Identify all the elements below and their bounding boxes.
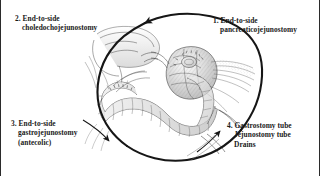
- label-4-line-3: Drains: [227, 140, 292, 149]
- label-3-line-1: End-to-side: [19, 119, 56, 128]
- label-1-line-2: pancreaticojejunostomy: [213, 25, 297, 34]
- label-4-line-2: Jejunostomy tube: [227, 130, 292, 139]
- label-2-choledochojejunostomy: 2. End-to-side choledochojejunostomy: [15, 14, 97, 33]
- label-3-gastrojejunostomy: 3. End-to-side gastrojejunostomy (anteco…: [11, 119, 77, 147]
- label-1-number: 1.: [213, 16, 219, 25]
- label-4-line-1: Gastrostomy tube: [235, 121, 292, 130]
- label-2-line-2: choledochojejunostomy: [15, 23, 97, 32]
- figure-panel: 1. End-to-side pancreaticojejunostomy 2.…: [0, 0, 320, 176]
- label-3-line-2: gastrojejunostomy: [11, 128, 77, 137]
- flow-arrow-right: [241, 31, 262, 130]
- label-1-pancreaticojejunostomy: 1. End-to-side pancreaticojejunostomy: [213, 16, 297, 35]
- label-2-line-1: End-to-side: [23, 14, 60, 23]
- label-4-number: 4.: [227, 121, 233, 130]
- label-2-number: 2.: [15, 14, 21, 23]
- label-3-number: 3.: [11, 119, 17, 128]
- label-1-line-1: End-to-side: [221, 16, 258, 25]
- label-3-line-3: (antecolic): [11, 138, 77, 147]
- label-4-tubes-and-drains: 4. Gastrostomy tube Jejunostomy tube Dra…: [227, 121, 292, 149]
